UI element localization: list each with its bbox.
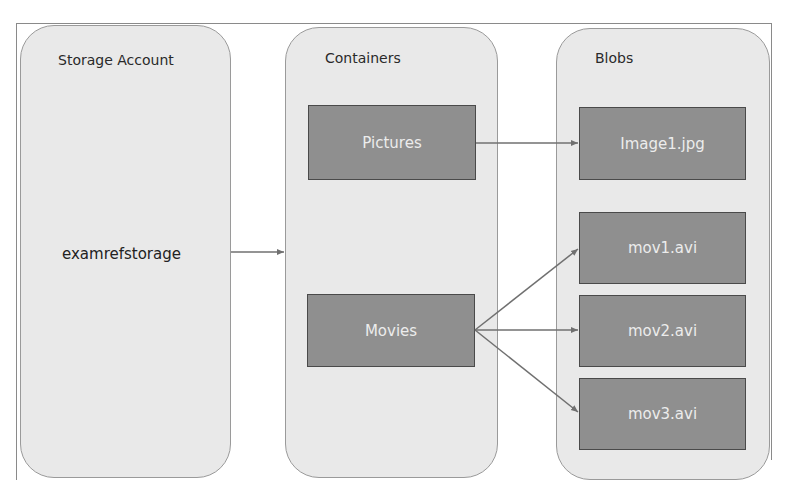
arrow-movies-to-mov1 — [475, 249, 578, 330]
connector-arrows — [0, 0, 785, 493]
arrow-movies-to-mov3 — [475, 330, 578, 412]
